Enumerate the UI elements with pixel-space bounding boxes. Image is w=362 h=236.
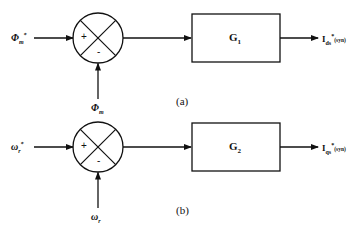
output-label-b: Iqs*(syn) — [322, 142, 346, 155]
output-label-a: Ids*(syn) — [322, 33, 346, 46]
diagram-b — [34, 122, 318, 208]
caption-b: (b) — [176, 205, 189, 216]
feedback-input-label-b: ωr — [91, 212, 101, 224]
feedback-input-label-a: Φm — [91, 103, 104, 115]
minus-sign-b: - — [97, 156, 100, 166]
caption-a: (a) — [176, 96, 188, 107]
plus-sign-b: + — [81, 141, 87, 151]
block-diagram-canvas — [0, 0, 362, 236]
block-label-g1: G1 — [229, 32, 241, 46]
diagram-a — [34, 13, 318, 99]
reference-input-label-b: ωr* — [11, 141, 24, 154]
reference-input-label-a: Φm* — [11, 32, 27, 45]
block-label-g2: G2 — [229, 141, 241, 155]
plus-sign-a: + — [81, 32, 87, 42]
minus-sign-a: - — [97, 47, 100, 57]
